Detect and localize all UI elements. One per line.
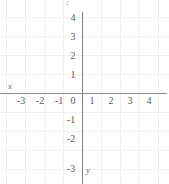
x-axis-label: x (8, 82, 12, 91)
gridline-vertical (25, 0, 26, 184)
coordinate-plane: z x y 0 -3 -2 -1 1 2 3 4 4 3 2 1 -1 -2 -… (0, 0, 169, 184)
y-tick-label: 1 (67, 70, 79, 80)
origin-label: 0 (67, 96, 79, 106)
gridline-vertical (63, 0, 64, 184)
x-tick-label: 2 (105, 96, 117, 106)
gridline-horizontal (0, 169, 169, 170)
gridline-horizontal (0, 131, 169, 132)
gridline-vertical (158, 0, 159, 184)
gridline-vertical (139, 0, 140, 184)
clipped-top-glyph: z (66, 0, 70, 7)
y-tick-label: 2 (67, 51, 79, 61)
x-tick-label: 3 (124, 96, 136, 106)
gridline-vertical (44, 0, 45, 184)
gridline-horizontal (0, 36, 169, 37)
y-axis-line (82, 12, 83, 184)
y-tick-label: -2 (64, 134, 78, 144)
grid-layer (0, 0, 169, 184)
y-tick-label: -1 (64, 115, 78, 125)
gridline-horizontal (0, 112, 169, 113)
y-tick-label: 3 (67, 32, 79, 42)
x-axis-line (0, 93, 167, 94)
x-tick-label: 4 (143, 96, 155, 106)
gridline-horizontal (0, 55, 169, 56)
x-tick-label: -3 (14, 96, 28, 106)
y-tick-label: 4 (67, 13, 79, 23)
gridline-horizontal (0, 17, 169, 18)
x-tick-label: -1 (52, 96, 66, 106)
gridline-horizontal (0, 150, 169, 151)
x-tick-label: 1 (86, 96, 98, 106)
gridline-vertical (101, 0, 102, 184)
y-tick-label: -3 (64, 164, 78, 174)
gridline-vertical (6, 0, 7, 184)
gridline-horizontal (0, 74, 169, 75)
y-axis-label: y (86, 166, 90, 175)
gridline-vertical (120, 0, 121, 184)
x-tick-label: -2 (33, 96, 47, 106)
